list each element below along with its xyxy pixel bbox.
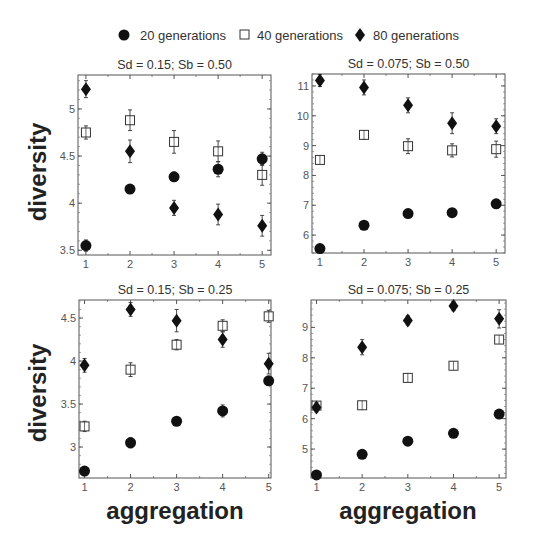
legend-label: 20 generations: [140, 28, 227, 43]
y-tick-label: 9: [302, 321, 308, 333]
plot-frame: [78, 75, 271, 255]
x-tick-label: 2: [128, 481, 134, 493]
plot-frame: [79, 300, 271, 478]
data-point-circle: [314, 243, 325, 254]
series-20-generations: [311, 409, 505, 481]
series-80-generations: [311, 299, 504, 414]
data-point-diamond: [172, 314, 182, 328]
x-tick-label: 2: [361, 256, 367, 268]
filled-diamond-icon: [355, 28, 365, 42]
data-point-diamond: [218, 333, 228, 347]
data-point-circle: [403, 208, 414, 219]
plot-frame: [311, 300, 506, 478]
x-tick-label: 4: [220, 481, 226, 493]
data-point-diamond: [494, 312, 504, 326]
x-tick-label: 1: [313, 481, 319, 493]
data-point-circle: [257, 153, 268, 164]
panel-bottom-right: Sd = 0.075; Sb = 0.25 5678912345: [302, 283, 506, 493]
data-point-diamond: [491, 119, 501, 133]
data-point-circle: [402, 436, 413, 447]
y-tick-label: 3.5: [60, 244, 75, 256]
y-tick-label: 3: [70, 441, 76, 453]
y-tick-label: 9: [303, 140, 309, 152]
data-point-circle: [494, 409, 505, 420]
y-tick-label: 7: [303, 199, 309, 211]
data-point-diamond: [315, 74, 325, 88]
series-80-generations: [81, 81, 267, 236]
chart-canvas: 20 generations 40 generations 80 generat…: [0, 0, 533, 553]
x-axis-label-right: aggregation: [339, 497, 476, 524]
data-point-diamond: [448, 299, 458, 313]
series-80-generations: [80, 302, 274, 373]
series-40-generations: [315, 130, 500, 164]
y-tick-label: 8: [302, 352, 308, 364]
data-point-diamond: [126, 302, 136, 316]
data-point-diamond: [125, 144, 135, 158]
data-point-diamond: [447, 116, 457, 130]
panels: Sd = 0.15; Sb = 0.50 3.544.5512345 Sd = …: [60, 57, 506, 493]
series-80-generations: [315, 74, 501, 134]
panel-title: Sd = 0.075; Sb = 0.50: [348, 57, 470, 71]
data-point-circle: [171, 416, 182, 427]
x-tick-label: 3: [171, 258, 177, 270]
y-tick-label: 11: [298, 80, 309, 92]
data-point-circle: [169, 171, 180, 182]
y-tick-label: 7: [302, 382, 308, 394]
data-point-circle: [448, 428, 459, 439]
y-tick-label: 5: [302, 443, 308, 455]
x-tick-label: 5: [493, 256, 499, 268]
data-point-circle: [213, 164, 224, 175]
legend-item-20-generations: 20 generations: [119, 28, 227, 43]
y-tick-label: 5: [69, 103, 75, 115]
data-point-diamond: [264, 357, 274, 371]
legend-label: 80 generations: [373, 28, 460, 43]
data-point-circle: [447, 207, 458, 218]
y-tick-label: 8: [303, 169, 309, 181]
y-tick-label: 3.5: [61, 398, 76, 410]
y-tick-label: 4: [70, 355, 76, 367]
x-tick-label: 5: [266, 481, 272, 493]
series-20-generations: [79, 375, 274, 476]
x-tick-label: 2: [359, 481, 365, 493]
x-tick-label: 3: [174, 481, 180, 493]
y-tick-label: 6: [302, 413, 308, 425]
x-tick-label: 1: [83, 258, 89, 270]
x-tick-label: 1: [81, 481, 87, 493]
x-tick-label: 5: [259, 258, 265, 270]
x-axis-label-left: aggregation: [106, 497, 243, 524]
data-point-diamond: [357, 340, 367, 354]
legend-label: 40 generations: [257, 28, 344, 43]
x-tick-label: 4: [215, 258, 221, 270]
panel-title: Sd = 0.15; Sb = 0.25: [118, 283, 233, 297]
data-point-diamond: [81, 82, 91, 96]
data-point-circle: [311, 469, 322, 480]
x-tick-label: 1: [317, 256, 323, 268]
data-point-circle: [217, 405, 228, 416]
x-tick-label: 3: [405, 256, 411, 268]
y-tick-label: 4.5: [60, 150, 75, 162]
series-20-generations: [314, 198, 501, 254]
y-tick-label: 4: [69, 197, 75, 209]
figure: 20 generations 40 generations 80 generat…: [0, 0, 533, 553]
data-point-circle: [357, 449, 368, 460]
y-tick-label: 6: [303, 229, 309, 241]
legend-item-40-generations: 40 generations: [240, 28, 344, 43]
y-axis-label-top: diversity: [24, 122, 51, 221]
y-tick-label: 4.5: [61, 312, 76, 324]
data-point-diamond: [169, 201, 179, 215]
data-point-circle: [80, 240, 91, 251]
data-point-diamond: [403, 98, 413, 112]
filled-circle-icon: [119, 30, 130, 41]
data-point-diamond: [213, 207, 223, 221]
x-tick-label: 3: [405, 481, 411, 493]
data-point-circle: [124, 184, 135, 195]
data-point-circle: [79, 466, 90, 477]
data-point-circle: [263, 375, 274, 386]
panel-top-left: Sd = 0.15; Sb = 0.50 3.544.5512345: [60, 58, 271, 270]
data-point-diamond: [257, 219, 267, 233]
x-tick-label: 4: [449, 256, 455, 268]
panel-title: Sd = 0.15; Sb = 0.50: [117, 58, 232, 72]
y-tick-label: 10: [297, 110, 309, 122]
data-point-diamond: [80, 358, 90, 372]
x-tick-label: 4: [450, 481, 456, 493]
